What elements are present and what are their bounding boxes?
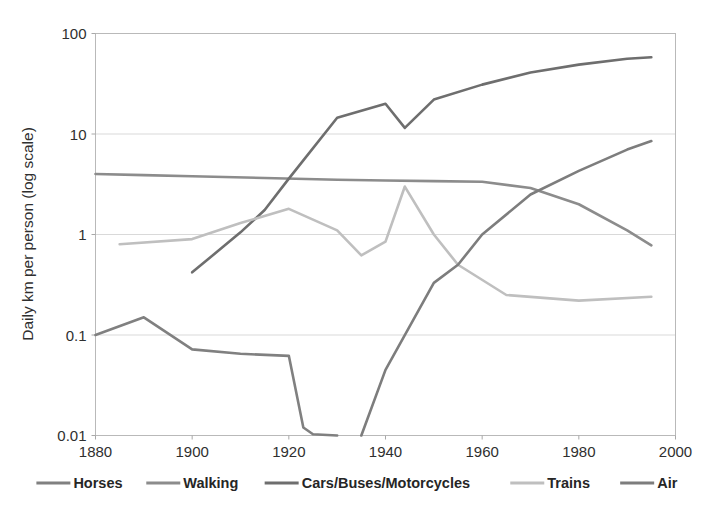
y-tick-label: 0.1 bbox=[66, 327, 87, 344]
series-line-trains bbox=[120, 187, 652, 301]
legend-label-walking[interactable]: Walking bbox=[183, 475, 238, 491]
gridlines bbox=[96, 134, 676, 335]
y-tick-label: 10 bbox=[70, 126, 87, 143]
x-tick-label: 1920 bbox=[272, 443, 305, 460]
x-tick-label: 1960 bbox=[465, 443, 498, 460]
x-tick-label: 1940 bbox=[369, 443, 402, 460]
y-tick-label: 1 bbox=[78, 226, 86, 243]
x-tick-label: 1880 bbox=[79, 443, 112, 460]
x-axis-tick-labels: 1880190019201940196019802000 bbox=[79, 443, 692, 460]
legend-label-cars-buses-motorcycles[interactable]: Cars/Buses/Motorcycles bbox=[302, 475, 470, 491]
y-axis-title: Daily km per person (log scale) bbox=[19, 127, 36, 341]
chart-legend: HorsesWalkingCars/Buses/MotorcyclesTrain… bbox=[36, 475, 677, 491]
chart-container: 1001010.10.01 18801900192019401960198020… bbox=[0, 0, 719, 524]
y-tick-label: 100 bbox=[61, 25, 86, 42]
line-chart: 1001010.10.01 18801900192019401960198020… bbox=[0, 0, 719, 524]
y-tick-label: 0.01 bbox=[57, 427, 86, 444]
x-tick-label: 1980 bbox=[562, 443, 595, 460]
legend-label-horses[interactable]: Horses bbox=[73, 475, 122, 491]
series-line-cars-buses-motorcycles bbox=[192, 57, 651, 272]
legend-label-trains[interactable]: Trains bbox=[547, 475, 590, 491]
x-tick-label: 2000 bbox=[659, 443, 692, 460]
data-series-group bbox=[96, 57, 652, 435]
legend-label-air[interactable]: Air bbox=[657, 475, 678, 491]
y-axis-tick-labels: 1001010.10.01 bbox=[57, 25, 86, 444]
x-tick-label: 1900 bbox=[175, 443, 208, 460]
